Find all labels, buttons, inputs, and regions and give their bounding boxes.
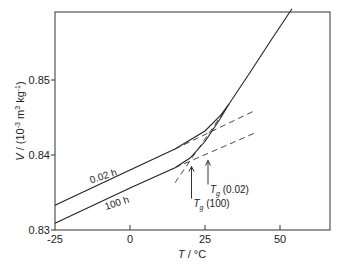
extrapolation-line xyxy=(175,133,256,168)
y-axis: 0.830.840.85 xyxy=(29,74,55,236)
y-tick-label: 0.83 xyxy=(29,224,50,236)
chart: -2502550 0.830.840.85 0.02 h100 h Tg (0.… xyxy=(0,0,342,268)
y-tick-label: 0.85 xyxy=(29,74,50,86)
x-tick-label: 25 xyxy=(199,233,211,245)
x-axis: -2502550 xyxy=(47,225,286,245)
series-group: 0.02 h100 h xyxy=(55,9,292,224)
y-axis-label: V / (10-3 m3 kg-1) xyxy=(14,81,26,160)
annotation-label: Tg (0.02) xyxy=(210,184,249,198)
extrapolation-line xyxy=(175,104,229,183)
y-tick-label: 0.84 xyxy=(29,149,50,161)
extrapolation-line xyxy=(175,110,256,149)
annotation-label: Tg (100) xyxy=(194,198,230,212)
x-axis-label: T / °C xyxy=(178,248,206,260)
x-tick-label: 0 xyxy=(127,233,133,245)
annotations: Tg (0.02)Tg (100) xyxy=(189,161,249,212)
x-tick-label: 50 xyxy=(274,233,286,245)
plot-frame xyxy=(55,12,330,230)
series-label: 100 h xyxy=(103,194,130,212)
